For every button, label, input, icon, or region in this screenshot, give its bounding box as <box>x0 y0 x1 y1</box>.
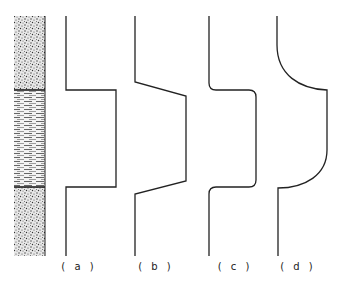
label-c: ( c ) <box>218 261 253 272</box>
curve-a <box>66 16 116 256</box>
upper-sand-layer <box>14 16 45 90</box>
label-a: ( a ) <box>61 261 96 272</box>
label-d: ( d ) <box>280 261 316 272</box>
lithology-column <box>14 16 45 256</box>
curve-b <box>135 16 186 256</box>
curve-d <box>277 16 327 256</box>
curve-c <box>209 16 256 256</box>
label-b: ( b ) <box>138 261 174 272</box>
lower-sand-layer <box>14 187 45 256</box>
log-response-diagram <box>0 0 339 285</box>
middle-shale-layer <box>14 90 45 187</box>
